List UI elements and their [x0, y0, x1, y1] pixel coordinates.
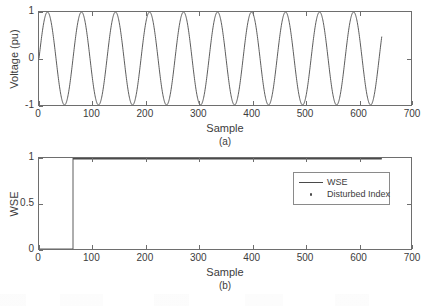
- plot-b-ylabel: WSE: [8, 176, 20, 232]
- xtick-label-a-0: 0: [35, 109, 41, 119]
- xtick-label-b-200: 200: [137, 253, 154, 263]
- tick-x-top-b-600: [360, 158, 361, 162]
- tick-x-top-b-500: [306, 158, 307, 162]
- legend-label-wse: WSE: [324, 178, 348, 187]
- tick-x-top-b-400: [253, 158, 254, 162]
- tick-x-top-a-200: [146, 12, 147, 16]
- ytick-label-a--1: -1: [19, 100, 34, 110]
- xtick-label-b-700: 700: [404, 253, 421, 263]
- tick-x-a-300: [199, 101, 200, 105]
- xtick-label-b-400: 400: [243, 253, 260, 263]
- xtick-label-a-700: 700: [404, 109, 421, 119]
- tick-x-a-100: [92, 101, 93, 105]
- xtick-label-b-300: 300: [190, 253, 207, 263]
- legend-dot-icon: [298, 193, 324, 196]
- tick-x-b-300: [199, 245, 200, 249]
- tick-x-b-500: [306, 245, 307, 249]
- plot-b-xlabel: Sample: [206, 266, 243, 278]
- tick-x-b-200: [146, 245, 147, 249]
- plot-b-legend: WSE Disturbed Index: [293, 172, 390, 205]
- tick-x-a-0: [39, 101, 40, 105]
- legend-line-icon: [298, 182, 324, 183]
- xtick-label-a-500: 500: [297, 109, 314, 119]
- ytick-label-b-1: 1: [22, 152, 34, 162]
- tick-x-top-b-200: [146, 158, 147, 162]
- ytick-label-a-0: 0: [22, 53, 34, 63]
- tick-x-b-100: [92, 245, 93, 249]
- xtick-label-a-300: 300: [190, 109, 207, 119]
- plot-a-caption: (a): [219, 136, 231, 147]
- tick-x-a-400: [253, 101, 254, 105]
- tick-x-b-700: [412, 245, 413, 249]
- xtick-label-a-200: 200: [137, 109, 154, 119]
- tick-y-b-0: [39, 250, 43, 251]
- legend-label-disturbed-index: Disturbed Index: [324, 190, 390, 199]
- xtick-label-a-100: 100: [83, 109, 100, 119]
- xtick-label-b-500: 500: [297, 253, 314, 263]
- tick-y-b-0.5: [39, 204, 43, 205]
- tick-y-a--1: [39, 106, 43, 107]
- tick-x-top-a-500: [306, 12, 307, 16]
- tick-y-b-1: [39, 158, 43, 159]
- plot-a-xlabel: Sample: [206, 122, 243, 134]
- xtick-label-b-100: 100: [83, 253, 100, 263]
- plot-a-canvas: [39, 12, 411, 105]
- tick-x-b-600: [360, 245, 361, 249]
- plot-b-caption: (b): [219, 280, 231, 291]
- figure-container: 1 0 -1 0 100 200 300 400 500 600 700 Vol…: [0, 0, 429, 306]
- tick-y-a-1: [39, 12, 43, 13]
- tick-y-a-0: [39, 59, 43, 60]
- tick-x-top-a-300: [199, 12, 200, 16]
- tick-x-b-0: [39, 245, 40, 249]
- ytick-label-a-1: 1: [22, 6, 34, 16]
- tick-x-a-200: [146, 101, 147, 105]
- xtick-label-a-600: 600: [350, 109, 367, 119]
- legend-entry-disturbed-index: Disturbed Index: [298, 189, 384, 200]
- tick-y-right-b-0.5: [407, 204, 411, 205]
- tick-y-right-a-0: [407, 59, 411, 60]
- xtick-label-a-400: 400: [243, 109, 260, 119]
- plot-a-ylabel: Voltage (pu): [8, 24, 20, 94]
- tick-x-top-b-300: [199, 158, 200, 162]
- tick-x-top-b-100: [92, 158, 93, 162]
- tick-x-a-500: [306, 101, 307, 105]
- plot-a-axes: [38, 11, 412, 106]
- tick-x-top-a-100: [92, 12, 93, 16]
- tick-x-a-700: [412, 101, 413, 105]
- tick-x-a-600: [360, 101, 361, 105]
- scan-artifact-strip: [0, 294, 429, 306]
- xtick-label-b-600: 600: [350, 253, 367, 263]
- ytick-label-b-0: 0: [22, 244, 34, 254]
- xtick-label-b-0: 0: [35, 253, 41, 263]
- tick-x-b-400: [253, 245, 254, 249]
- tick-x-top-a-600: [360, 12, 361, 16]
- legend-entry-wse: WSE: [298, 177, 384, 188]
- tick-x-top-a-400: [253, 12, 254, 16]
